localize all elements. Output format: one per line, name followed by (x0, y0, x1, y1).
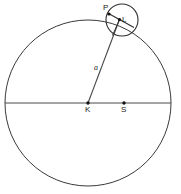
point-k-label: K (85, 106, 90, 114)
point-l-dot (118, 18, 121, 21)
point-s-label: S (121, 106, 126, 114)
point-p-dot (107, 12, 110, 15)
small-circle-spoke (113, 20, 120, 36)
radius-length-label: a (94, 64, 98, 72)
point-p-label: P (103, 4, 108, 12)
point-l-label: L (122, 16, 126, 24)
radius-k-to-l (88, 20, 120, 104)
geometry-figure: P L K S a (0, 0, 181, 194)
geometry-canvas (0, 0, 181, 194)
